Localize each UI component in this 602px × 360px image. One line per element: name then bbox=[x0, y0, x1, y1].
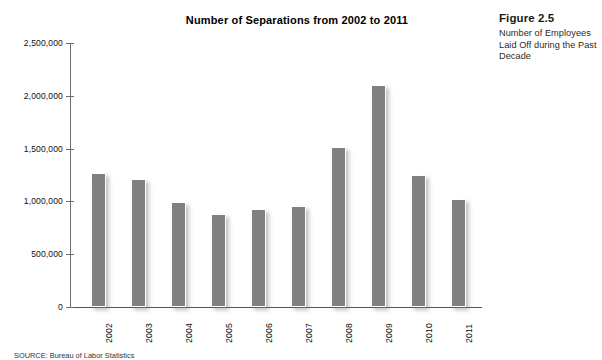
x-axis-tick-label: 2011 bbox=[464, 307, 474, 343]
y-axis-tick bbox=[66, 43, 74, 44]
bar bbox=[451, 199, 466, 307]
y-axis-tick-label: 1,500,000 bbox=[0, 144, 63, 154]
x-axis-tick-label: 2007 bbox=[304, 307, 314, 343]
x-axis-line bbox=[70, 307, 482, 308]
x-axis-tick-label-wrap: 2006 bbox=[239, 311, 279, 347]
y-axis-tick bbox=[66, 201, 74, 202]
bar bbox=[291, 206, 306, 307]
bar bbox=[411, 175, 426, 307]
x-axis-tick-label-wrap: 2002 bbox=[79, 311, 119, 347]
y-axis-tick-label: 1,000,000 bbox=[0, 196, 63, 206]
x-axis-tick-label-wrap: 2004 bbox=[159, 311, 199, 347]
x-axis-tick-label-wrap: 2007 bbox=[279, 311, 319, 347]
bar bbox=[331, 147, 346, 307]
bar bbox=[171, 202, 186, 307]
x-axis-tick-label: 2002 bbox=[104, 307, 114, 343]
y-axis-tick-label: 2,000,000 bbox=[0, 91, 63, 101]
bar bbox=[91, 173, 106, 307]
x-axis-tick-label-wrap: 2008 bbox=[319, 311, 359, 347]
bar bbox=[211, 214, 226, 307]
y-axis-tick-label-wrap: 1,500,000 bbox=[0, 144, 63, 154]
bar-chart-plot: 2,500,0002,000,0001,500,0001,000,000500,… bbox=[0, 0, 602, 360]
y-axis-tick-label-wrap: 0 bbox=[0, 302, 63, 312]
y-axis-tick-label-wrap: 2,000,000 bbox=[0, 91, 63, 101]
bar bbox=[371, 85, 386, 307]
x-axis-tick-label: 2003 bbox=[144, 307, 154, 343]
bar bbox=[131, 179, 146, 307]
x-axis-tick-label-wrap: 2011 bbox=[439, 311, 479, 347]
y-axis-line bbox=[70, 43, 71, 308]
y-axis-tick-label-wrap: 1,000,000 bbox=[0, 196, 63, 206]
source-note: SOURCE: Bureau of Labor Statistics bbox=[14, 351, 484, 360]
y-axis-tick-label: 0 bbox=[0, 302, 63, 312]
x-axis-tick-label: 2008 bbox=[344, 307, 354, 343]
x-axis-tick-label: 2004 bbox=[184, 307, 194, 343]
y-axis-tick-label-wrap: 2,500,000 bbox=[0, 38, 63, 48]
figure-page: Figure 2.5 Number of Employees Laid Off … bbox=[0, 0, 602, 360]
x-axis-tick-label-wrap: 2010 bbox=[399, 311, 439, 347]
y-axis-tick-label-wrap: 500,000 bbox=[0, 249, 63, 259]
x-axis-tick-label-wrap: 2005 bbox=[199, 311, 239, 347]
y-axis-tick bbox=[66, 149, 74, 150]
x-axis-tick-label: 2006 bbox=[264, 307, 274, 343]
y-axis-tick-label: 2,500,000 bbox=[0, 38, 63, 48]
x-axis-tick-label: 2005 bbox=[224, 307, 234, 343]
x-axis-tick-label-wrap: 2003 bbox=[119, 311, 159, 347]
x-axis-tick-label: 2009 bbox=[384, 307, 394, 343]
y-axis-tick bbox=[66, 96, 74, 97]
x-axis-tick-label: 2010 bbox=[424, 307, 434, 343]
y-axis-tick bbox=[66, 307, 74, 308]
bar bbox=[251, 209, 266, 307]
y-axis-tick-label: 500,000 bbox=[0, 249, 63, 259]
y-axis-tick bbox=[66, 254, 74, 255]
x-axis-tick-label-wrap: 2009 bbox=[359, 311, 399, 347]
